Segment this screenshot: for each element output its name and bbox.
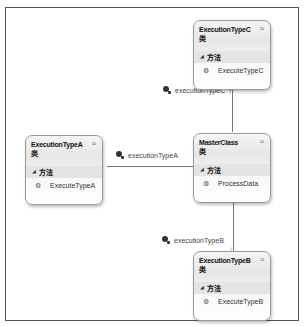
- class-name: ExecutionTypeA: [31, 140, 83, 149]
- section-label: 方法: [207, 283, 221, 293]
- connector-master-to-a: [107, 166, 193, 167]
- section-label: 方法: [207, 165, 221, 175]
- expand-triangle-icon: ◢: [200, 284, 204, 290]
- method-icon: ⚙: [203, 298, 209, 306]
- method-icon: ⚙: [203, 67, 209, 75]
- class-box-executiontypec[interactable]: ExecutionTypeC 类 ≈ ◢ 方法 ⚙ ExecuteTypeC: [193, 20, 271, 90]
- method-name: ExecuteTypeA: [50, 182, 95, 189]
- section-label: 方法: [39, 167, 53, 177]
- collapse-icon[interactable]: ≈: [260, 138, 264, 145]
- connector-master-to-b: [233, 200, 234, 252]
- association-name: executionTypeA: [128, 152, 178, 159]
- class-kind: 类: [31, 149, 38, 158]
- association-label-b[interactable]: executionTypeB: [162, 237, 224, 244]
- expand-triangle-icon: ◢: [200, 166, 204, 172]
- expand-triangle-icon: ◢: [32, 168, 36, 174]
- association-label-a[interactable]: executionTypeA: [116, 152, 178, 159]
- class-name: MasterClass: [199, 138, 238, 147]
- methods-section-header[interactable]: ◢ 方法: [194, 164, 270, 176]
- association-icon: [116, 151, 122, 157]
- method-item[interactable]: ⚙ ExecuteTypeA: [26, 181, 102, 193]
- method-name: ExecuteTypeC: [218, 67, 264, 74]
- class-box-executiontypeb[interactable]: ExecutionTypeB 类 ≈ ◢ 方法 ⚙ ExecuteTypeB: [193, 251, 271, 321]
- expand-triangle-icon: ◢: [200, 53, 204, 59]
- methods-section-header[interactable]: ◢ 方法: [26, 166, 102, 178]
- method-item[interactable]: ⚙ ProcessData: [194, 179, 270, 191]
- method-item[interactable]: ⚙ ExecuteTypeB: [194, 297, 270, 309]
- section-label: 方法: [207, 52, 221, 62]
- method-name: ProcessData: [218, 180, 258, 187]
- association-icon: [163, 86, 169, 92]
- class-kind: 类: [199, 265, 206, 274]
- class-name: ExecutionTypeC: [199, 25, 251, 34]
- method-item[interactable]: ⚙ ExecuteTypeC: [194, 66, 270, 78]
- collapse-icon[interactable]: ≈: [260, 256, 264, 263]
- methods-section-header[interactable]: ◢ 方法: [194, 51, 270, 63]
- association-name: executionTypeB: [174, 237, 224, 244]
- class-box-masterclass[interactable]: MasterClass 类 ≈ ◢ 方法 ⚙ ProcessData: [193, 133, 271, 203]
- connector-master-to-c: [232, 90, 233, 132]
- arrowhead-a: ←: [106, 162, 114, 170]
- collapse-icon[interactable]: ≈: [92, 140, 96, 147]
- method-name: ExecuteTypeB: [218, 298, 263, 305]
- collapse-icon[interactable]: ≈: [260, 25, 264, 32]
- method-icon: ⚙: [203, 180, 209, 188]
- class-box-executiontypea[interactable]: ExecutionTypeA 类 ≈ ◢ 方法 ⚙ ExecuteTypeA: [25, 135, 103, 205]
- methods-section-header[interactable]: ◢ 方法: [194, 282, 270, 294]
- method-icon: ⚙: [35, 182, 41, 190]
- class-name: ExecutionTypeB: [199, 256, 251, 265]
- association-icon: [162, 236, 168, 242]
- class-kind: 类: [199, 34, 206, 43]
- class-kind: 类: [199, 147, 206, 156]
